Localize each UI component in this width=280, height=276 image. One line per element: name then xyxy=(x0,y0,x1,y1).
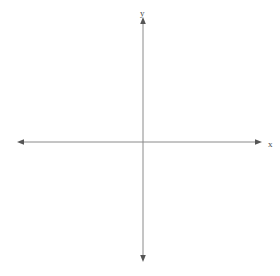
y-axis-label: y xyxy=(140,9,145,18)
coordinate-plane-figure: y x xyxy=(0,0,280,276)
figure-background xyxy=(0,0,280,276)
axes-drawing xyxy=(0,0,280,276)
x-axis-label: x xyxy=(268,140,273,149)
